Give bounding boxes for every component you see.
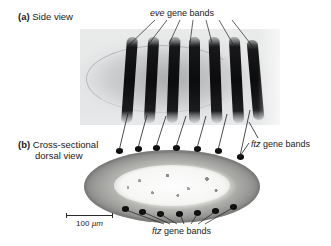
scale-bar-value: 100 bbox=[76, 219, 89, 228]
panel-b-caption-line2: dorsal view bbox=[35, 150, 98, 161]
ftz-gene-bands-label-right: ftz gene bands bbox=[251, 139, 310, 150]
panel-a-caption: (a) Side view bbox=[18, 11, 73, 22]
scale-bar-line bbox=[66, 215, 113, 216]
panel-a-to-panel-b-connectors bbox=[119, 110, 250, 156]
panel-b-caption-line1: Cross-sectional bbox=[33, 139, 98, 150]
scale-bar-unit: µm bbox=[92, 219, 103, 228]
leader-lines bbox=[0, 0, 331, 246]
panel-a-caption-text: Side view bbox=[32, 11, 73, 22]
ftz-right-label-rest: gene bands bbox=[261, 139, 311, 149]
panel-b-tag: (b) bbox=[18, 139, 30, 150]
eve-label-rest: gene bands bbox=[165, 8, 215, 18]
scale-bar: 100 µm bbox=[66, 213, 113, 229]
eve-gene-name: eve bbox=[150, 8, 165, 18]
scale-bar-tick-right bbox=[112, 213, 113, 218]
figure-root: (a) Side view (b) Cross-sectional dorsal… bbox=[0, 0, 331, 246]
panel-b-caption: (b) Cross-sectional dorsal view bbox=[18, 139, 98, 161]
panel-a-tag: (a) bbox=[18, 11, 30, 22]
ftz-bottom-leader-group bbox=[126, 207, 234, 224]
ftz-gene-name: ftz bbox=[251, 139, 261, 149]
ftz-bottom-label-rest: gene bands bbox=[162, 226, 212, 236]
eve-leader-group bbox=[127, 20, 253, 47]
eve-gene-bands-label: eve gene bands bbox=[150, 8, 214, 19]
scale-bar-label: 100 µm bbox=[66, 219, 113, 228]
ftz-gene-name: ftz bbox=[152, 226, 162, 236]
ftz-gene-bands-label-bottom: ftz gene bands bbox=[152, 226, 211, 237]
